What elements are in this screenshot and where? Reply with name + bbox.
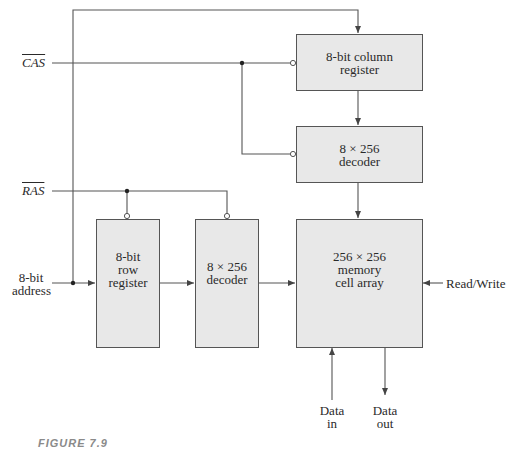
ras-bubble-row-decoder bbox=[224, 213, 229, 218]
cas-junction bbox=[240, 61, 244, 65]
address-junction bbox=[71, 281, 75, 285]
data-out-label: Data out bbox=[369, 404, 401, 430]
row-register-block: 8-bit row register bbox=[96, 219, 160, 348]
cas-bubble-column-register bbox=[290, 60, 295, 65]
ras-bubble-row-register bbox=[124, 213, 129, 218]
address-label: 8-bit address bbox=[12, 271, 50, 297]
memory-array-block: 256 × 256 memory cell array bbox=[296, 219, 423, 348]
cas-label: CAS bbox=[22, 56, 45, 69]
cas-bubble-column-decoder bbox=[290, 151, 295, 156]
row-decoder-block: 8 × 256 decoder bbox=[195, 219, 259, 348]
column-decoder-block: 8 × 256 decoder bbox=[296, 126, 423, 183]
ras-junction bbox=[125, 189, 129, 193]
ras-label: RAS bbox=[22, 184, 44, 197]
figure-caption: FIGURE 7.9 bbox=[38, 437, 108, 449]
column-register-block: 8-bit column register bbox=[296, 34, 423, 91]
data-in-label: Data in bbox=[316, 404, 348, 430]
read-write-label: Read/Write bbox=[446, 277, 505, 290]
